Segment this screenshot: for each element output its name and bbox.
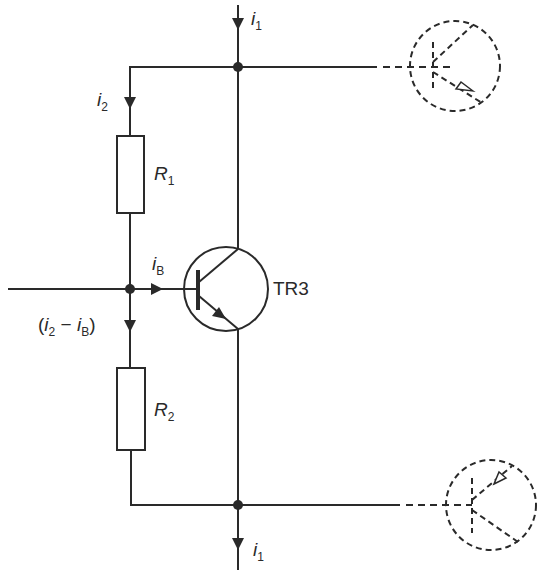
label-i1-bottom-sub: 1 <box>257 550 264 564</box>
label-ib-sub: B <box>156 264 164 278</box>
label-r2: R2 <box>154 400 174 419</box>
junction-top <box>233 62 243 72</box>
arrow-ib <box>151 283 163 295</box>
arrow-i1-bottom <box>232 538 244 550</box>
label-i1-top-sub: 1 <box>255 19 262 33</box>
resistor-r1 <box>117 136 144 213</box>
junction-bottom <box>233 500 243 510</box>
diff-a-sub: 2 <box>49 325 56 339</box>
label-i1-top: i1 <box>251 9 262 28</box>
label-i2: i2 <box>97 90 108 109</box>
diff-operator: − <box>55 314 77 335</box>
label-i2-minus-ib: (i2 − iB) <box>38 315 95 334</box>
junction-base <box>125 284 135 294</box>
label-tr3: TR3 <box>273 279 309 298</box>
diff-b-sub: B <box>81 325 89 339</box>
bottom-wire-left <box>131 450 238 505</box>
resistor-r2 <box>117 368 145 450</box>
label-r1: R1 <box>154 164 174 183</box>
ghost-top-emitter-arrow <box>456 82 473 91</box>
label-ib: iB <box>152 254 164 273</box>
diff-close-paren: ) <box>89 314 95 335</box>
arrow-i2-minus-ib <box>124 320 136 332</box>
top-wire-left <box>130 67 238 135</box>
label-r2-sub: 2 <box>168 410 175 424</box>
arrow-i2 <box>124 97 136 109</box>
label-r1-sub: 1 <box>168 174 175 188</box>
label-r2-name: R <box>154 399 168 420</box>
label-i1-bottom: i1 <box>253 540 264 559</box>
tr3-collector <box>199 249 238 282</box>
label-i2-sub: 2 <box>101 100 108 114</box>
diff-a-base: i <box>44 314 48 335</box>
label-r1-name: R <box>154 163 168 184</box>
arrow-i1-top <box>232 18 244 30</box>
